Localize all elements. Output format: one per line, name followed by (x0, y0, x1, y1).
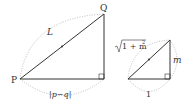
small-triangle: 1 + m 2 m 1 (115, 39, 182, 99)
exponent: 2 (142, 39, 145, 45)
small-right-angle-mark (165, 74, 170, 79)
small-midpoint-dot (148, 59, 150, 61)
large-triangle: Q P L |p−q| (11, 3, 107, 99)
similar-triangles-diagram: Q P L |p−q| 1 + m 2 m 1 (0, 0, 186, 103)
vertex-p-label: P (11, 75, 17, 85)
base-label-abs-diff: |p−q| (49, 90, 71, 99)
midpoint-dot (61, 46, 63, 48)
sqrt-label: 1 + m 2 (115, 39, 147, 52)
vertex-q-label: Q (100, 3, 107, 13)
hypotenuse-label-L: L (46, 27, 53, 37)
vertical-label-m: m (173, 55, 182, 65)
right-angle-mark (99, 74, 104, 79)
base-label-1: 1 (146, 90, 151, 99)
